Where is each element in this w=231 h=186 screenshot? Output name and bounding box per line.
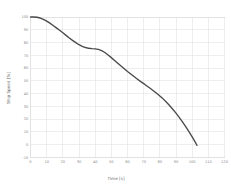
x-tick-label: 60 bbox=[125, 160, 130, 164]
y-tick-label: 60 bbox=[24, 66, 29, 70]
x-tick-label: 30 bbox=[77, 160, 82, 164]
chart-container: 0102030405060708090100110120 -1001020304… bbox=[0, 0, 231, 186]
x-axis-title: Time [s] bbox=[106, 176, 124, 181]
y-tick-label: 30 bbox=[24, 105, 29, 109]
y-tick-label: 40 bbox=[24, 92, 29, 96]
y-axis-title: Ship Speed [%] bbox=[6, 72, 11, 105]
y-tick-label: 80 bbox=[24, 41, 29, 45]
y-tick-label: 100 bbox=[21, 15, 29, 19]
x-tick-label: 80 bbox=[158, 160, 163, 164]
y-tick-label: -10 bbox=[22, 156, 29, 160]
y-tick-label: 90 bbox=[24, 28, 29, 32]
x-tick-label: 100 bbox=[189, 160, 197, 164]
x-tick-label: 120 bbox=[221, 160, 229, 164]
x-tick-label: 50 bbox=[109, 160, 114, 164]
x-tick-label: 20 bbox=[61, 160, 66, 164]
y-tick-label: 50 bbox=[24, 79, 29, 83]
x-tick-label: 10 bbox=[44, 160, 49, 164]
x-tick-label: 40 bbox=[93, 160, 98, 164]
y-tick-label: 20 bbox=[24, 117, 29, 121]
x-tick-label: 110 bbox=[205, 160, 213, 164]
line-chart-plot: 0102030405060708090100110120 -1001020304… bbox=[0, 0, 231, 186]
x-tick-label: 70 bbox=[141, 160, 146, 164]
x-tick-label: 90 bbox=[174, 160, 179, 164]
y-tick-label: 10 bbox=[24, 130, 29, 134]
chart-background bbox=[0, 0, 231, 186]
y-tick-label: 70 bbox=[24, 54, 29, 58]
